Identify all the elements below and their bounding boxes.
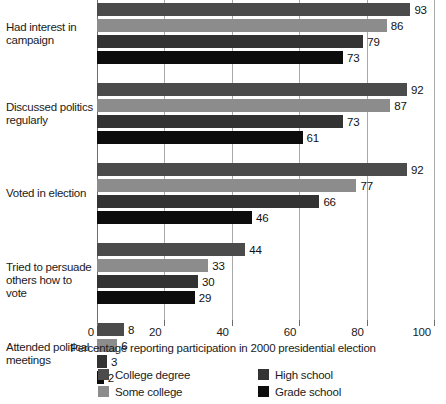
legend-label: Some college [115,386,182,398]
bar-value-label: 30 [198,276,214,288]
bar-row: 73 [97,115,434,128]
bar [97,35,363,48]
x-tick-0 [97,320,98,326]
bar [97,291,195,304]
bar-value-label: 79 [363,36,379,48]
category-label: Had interest in campaign [6,21,94,47]
legend-label: College degree [115,369,190,381]
bar [97,179,356,192]
legend: College degreeHigh schoolSome collegeGra… [98,366,398,400]
bar-row: 61 [97,131,434,144]
x-tick-100 [434,320,435,326]
bar-chart: 938679739287736192776646443330298632 Had… [0,0,446,404]
gridline-60 [299,0,300,320]
bar-row: 87 [97,99,434,112]
bar-value-label: 44 [245,244,261,256]
plot-area: 938679739287736192776646443330298632 [97,0,434,320]
bar-row: 8 [97,323,434,336]
bar-value-label: 86 [387,20,403,32]
legend-swatch-icon [258,386,269,397]
x-tick-label: 60 [284,326,299,338]
legend-item: Grade school [258,386,418,398]
bar-row: 93 [97,3,434,16]
legend-item: Some college [98,386,258,398]
legend-label: Grade school [275,386,341,398]
bar [97,83,407,96]
gridline-100 [434,0,435,320]
bar [97,211,252,224]
bar-row: 77 [97,179,434,192]
bar-row: 44 [97,243,434,256]
bar-row: 92 [97,83,434,96]
legend-swatch-icon [98,386,109,397]
bar [97,99,390,112]
bar-value-label: 66 [319,196,335,208]
bar-value-label: 8 [124,324,134,336]
bar-value-label: 29 [195,292,211,304]
bar-value-label: 46 [252,212,268,224]
bar-row: 66 [97,195,434,208]
x-tick-40 [232,320,233,326]
bar-row: 86 [97,19,434,32]
bar-value-label: 92 [407,84,423,96]
bar [97,323,124,336]
bar-value-label: 73 [343,52,359,64]
bar [97,19,387,32]
legend-label: High school [275,369,333,381]
legend-swatch-icon [258,369,269,380]
category-label: Discussed politics regularly [6,101,94,127]
bar-row: 46 [97,211,434,224]
x-tick-label: 20 [149,326,164,338]
bar [97,131,303,144]
x-tick-60 [299,320,300,326]
bar [97,115,343,128]
gridline-0 [97,0,98,320]
x-tick-label: 0 [88,326,97,338]
bar [97,195,319,208]
bar [97,275,198,288]
bar [97,3,410,16]
gridline-80 [367,0,368,320]
gridline-20 [164,0,165,320]
bar-row: 33 [97,259,434,272]
bar-value-label: 92 [407,164,423,176]
x-tick-label: 100 [412,326,434,338]
bar [97,243,245,256]
x-tick-label: 40 [216,326,231,338]
bar-value-label: 87 [390,100,406,112]
bar-value-label: 33 [208,260,224,272]
legend-item: College degree [98,369,258,381]
x-tick-80 [367,320,368,326]
bar [97,259,208,272]
x-tick-label: 80 [351,326,366,338]
bar-row: 79 [97,35,434,48]
legend-swatch-icon [98,369,109,380]
bar-value-label: 93 [410,4,426,16]
category-label: Voted in election [6,187,94,200]
bar-row: 30 [97,275,434,288]
bar-value-label: 73 [343,116,359,128]
bar-row: 29 [97,291,434,304]
x-axis-title: Percentage reporting participation in 20… [0,342,446,354]
bar [97,51,343,64]
bar [97,163,407,176]
gridline-40 [232,0,233,320]
bar-row: 92 [97,163,434,176]
bar-value-label: 77 [356,180,372,192]
x-tick-20 [164,320,165,326]
category-label: Tried to persuade others how to vote [6,261,94,300]
legend-item: High school [258,369,418,381]
bar-value-label: 61 [303,132,319,144]
bar-row: 73 [97,51,434,64]
